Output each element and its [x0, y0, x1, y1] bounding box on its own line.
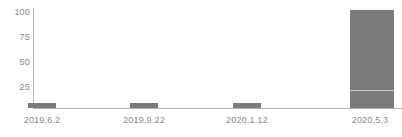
y-axis-tick-100: 100: [2, 8, 30, 17]
x-axis-tick-2019-9-22: 2019.9.22: [123, 115, 165, 125]
bar-2019-6-2: [28, 103, 56, 108]
bar-2019-9-22: [130, 103, 158, 108]
y-axis-tick-75: 75: [2, 33, 30, 42]
x-axis-tick-2019-6-2: 2019.6.2: [24, 115, 61, 125]
x-axis-tick-2020-1-12: 2020.1.12: [226, 115, 268, 125]
bar-segment-divider: [350, 90, 394, 91]
bar-2020-1-12: [233, 103, 261, 108]
x-axis-tick-2020-5-3: 2020.5.3: [352, 115, 389, 125]
bar-2020-5-3: [350, 10, 394, 108]
y-axis-tick-50: 50: [2, 58, 30, 67]
y-axis-tick-25: 25: [2, 83, 30, 92]
x-axis-line: [33, 108, 402, 109]
plot-area: [33, 8, 402, 108]
bar-chart: 100 75 50 25 2019.6.2 2019.9.22 2020.1.1…: [0, 0, 402, 137]
